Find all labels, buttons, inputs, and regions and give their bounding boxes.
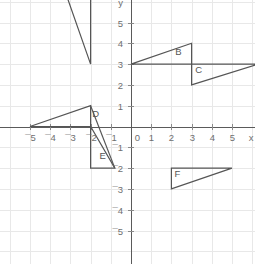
- y-tick-label: 4: [118, 38, 123, 49]
- x-tick-label: 1: [149, 132, 154, 143]
- x-tick-label: ¯1: [105, 132, 117, 143]
- y-tick-label: ¯3: [111, 184, 123, 195]
- x-tick-label: 3: [190, 132, 195, 143]
- triangle-shapes: [30, 0, 255, 189]
- tick-labels: ¯5¯4¯3¯2¯1012345¯5¯4¯3¯2¯112345yx: [24, 0, 253, 237]
- y-tick-label: ¯2: [111, 163, 123, 174]
- x-axis-name: x: [249, 132, 254, 143]
- y-tick-label: 1: [118, 101, 123, 112]
- triangle-f: [171, 168, 232, 189]
- gridlines: [0, 0, 255, 264]
- y-axis-name: y: [118, 0, 123, 8]
- x-tick-label: ¯2: [85, 132, 97, 143]
- x-tick-label: ¯4: [44, 132, 56, 143]
- shape-label-e: E: [100, 150, 106, 161]
- x-tick-label: 2: [169, 132, 174, 143]
- y-tick-label: 3: [118, 59, 123, 70]
- shape-label-c: C: [195, 64, 202, 75]
- axes: [0, 0, 255, 264]
- x-tick-label: ¯3: [64, 132, 76, 143]
- x-tick-label: 5: [230, 132, 235, 143]
- y-tick-label: 2: [118, 80, 123, 91]
- triangle-a: [64, 0, 90, 64]
- y-tick-label: ¯4: [111, 205, 123, 216]
- x-tick-label: ¯5: [24, 132, 36, 143]
- x-tick-label: 4: [210, 132, 215, 143]
- triangle-b: [131, 43, 192, 64]
- coordinate-plane-figure: ¯5¯4¯3¯2¯1012345¯5¯4¯3¯2¯112345yx ABCDEF: [0, 0, 255, 264]
- shape-label-d: D: [92, 108, 99, 119]
- y-tick-label: ¯1: [111, 142, 123, 153]
- coordinate-plane-svg: ¯5¯4¯3¯2¯1012345¯5¯4¯3¯2¯112345yx ABCDEF: [0, 0, 255, 264]
- shape-label-b: B: [175, 46, 181, 57]
- y-tick-label: ¯5: [111, 226, 123, 237]
- shape-label-f: F: [175, 168, 181, 179]
- x-tick-label: 0: [135, 132, 140, 143]
- triangle-d: [30, 106, 91, 127]
- y-tick-label: 5: [118, 18, 123, 29]
